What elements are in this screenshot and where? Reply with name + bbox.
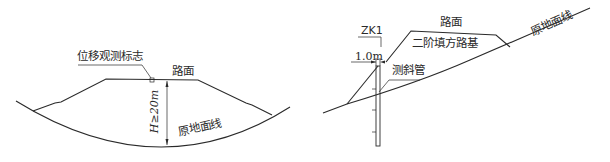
borehole-label: ZK1 — [361, 25, 383, 36]
dimension-arrow-up-icon — [166, 81, 169, 87]
offset-label: 1.0m — [355, 51, 383, 62]
marker-leader-line — [78, 65, 151, 78]
inclinometer-pipe — [376, 66, 380, 146]
inclinometer-label: 测斜管 — [392, 65, 425, 77]
zk1-leader-line — [358, 37, 381, 47]
right-road-surface-label: 路面 — [440, 17, 462, 29]
marker-label: 位移观测标志 — [77, 51, 143, 63]
dimension-arrow-down-icon — [166, 139, 169, 145]
embankment-label: 二阶填方路基 — [412, 38, 478, 50]
diagram-canvas — [0, 0, 610, 162]
right-embankment-outline — [347, 66, 378, 104]
height-label: H≥20m — [149, 90, 160, 133]
left-road-surface-label: 路面 — [172, 66, 194, 78]
